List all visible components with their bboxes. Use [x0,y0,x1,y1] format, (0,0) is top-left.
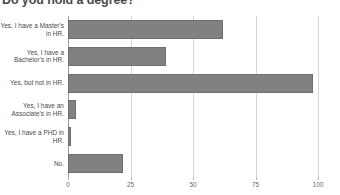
bar-row[interactable] [68,47,166,66]
y-axis-category-labels: Yes, I have a Master's in HR.Yes, I have… [0,16,64,177]
bar[interactable] [68,47,166,66]
chart-title: Do you hold a degree? [2,0,135,7]
x-tick-label: 75 [252,181,259,188]
category-label: Yes, I have a Master's in HR. [0,22,64,37]
bars-layer [68,16,318,177]
gridline-100 [318,16,319,177]
x-tick-label: 100 [313,181,324,188]
category-label: Yes, I have a PHD in HR. [0,129,64,144]
tick-mark-25 [131,177,132,180]
tick-mark-50 [193,177,194,180]
x-tick-label: 50 [189,181,196,188]
category-label: Yes, but not in HR. [0,79,64,87]
bar-row[interactable] [68,154,123,173]
bar-chart: Do you hold a degree? Yes, I have a Mast… [0,0,340,195]
category-label: No. [0,160,64,168]
bar[interactable] [68,100,76,119]
category-label: Yes, I have an Associate's in HR. [0,102,64,117]
bar-row[interactable] [68,20,223,39]
bar-row[interactable] [68,127,71,146]
tick-mark-0 [68,177,69,180]
x-tick-label: 0 [66,181,70,188]
tick-mark-100 [318,177,319,180]
bar[interactable] [68,20,223,39]
x-axis-ticks: 0255075100 [68,177,318,195]
category-label: Yes, I have a Bachelor's in HR. [0,49,64,64]
plot-area [68,16,318,177]
bar-row[interactable] [68,74,313,93]
bar-row[interactable] [68,100,76,119]
x-tick-label: 25 [127,181,134,188]
bar[interactable] [68,74,313,93]
tick-mark-75 [256,177,257,180]
bar[interactable] [68,127,71,146]
bar[interactable] [68,154,123,173]
